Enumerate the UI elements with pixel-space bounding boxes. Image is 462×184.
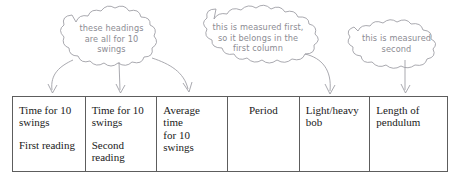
callout-measured-second-text: this is measured second — [347, 33, 446, 54]
column-5-heading: Light/heavy bob — [306, 104, 364, 129]
column-1-heading: Time for 10 swings — [19, 104, 79, 129]
callout-headings-text: these headings are all for 10 swings — [62, 23, 161, 55]
table-column-2: Time for 10 swings Second reading — [86, 97, 158, 171]
arrow-headings-to-col-1 — [48, 60, 73, 93]
table-column-1: Time for 10 swings First reading — [13, 97, 86, 171]
column-2-heading: Time for 10 swings — [92, 104, 151, 129]
column-3-heading: Average time for 10 swings — [163, 104, 221, 154]
column-1-subheading: First reading — [19, 139, 79, 151]
column-6-heading: Length of pendulum — [376, 104, 441, 129]
arrow-measured-first-to-col-5 — [305, 54, 335, 94]
table-column-6: Length of pendulum — [370, 97, 447, 171]
arrow-headings-to-col-2 — [116, 62, 125, 93]
arrow-headings-to-col-3 — [152, 58, 192, 92]
table-column-5: Light/heavy bob — [300, 97, 371, 171]
arrow-measured-second-to-col-6 — [401, 60, 410, 93]
column-2-subheading: Second reading — [92, 139, 151, 164]
table-column-4: Period — [228, 97, 300, 171]
headings-table: Time for 10 swings First reading Time fo… — [12, 96, 448, 172]
diagram-canvas: these headings are all for 10 swings thi… — [0, 0, 462, 184]
column-4-heading: Period — [234, 104, 293, 116]
table-column-3: Average time for 10 swings — [157, 97, 228, 171]
callout-measured-first-text: this is measured first, so it belongs in… — [197, 22, 319, 54]
